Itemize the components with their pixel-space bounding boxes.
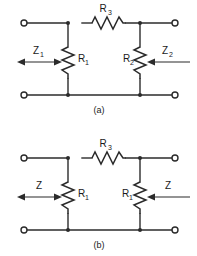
panel-a: R 3 R 1 R 2 Z 1 Z 2 (a) (17, 3, 190, 115)
panel-b-terminal-top-right (172, 155, 178, 161)
panel-a-resistor-r2-symbol (134, 47, 146, 79)
panel-b-node-top-right (138, 156, 142, 160)
panel-a-label-r1-subscript: 1 (85, 59, 89, 66)
panel-a-impedance-right-arrow (147, 59, 190, 66)
panel-a-resistor-r3-symbol (92, 17, 126, 29)
panel-b-node-bottom-right (138, 228, 142, 232)
panel-b: R 3 R 1 R 1 Z Z (b) (17, 138, 190, 250)
panel-a-caption: (a) (94, 105, 105, 115)
panel-a-resistor-r1-symbol (62, 47, 74, 79)
panel-a-label-r3: R (99, 3, 106, 14)
panel-b-impedance-right-arrow (147, 194, 190, 201)
panel-a-label-z2-subscript: 2 (169, 51, 173, 58)
panel-a-node-top-right (138, 21, 142, 25)
panel-b-impedance-left-arrow (17, 194, 62, 201)
circuit-diagram-canvas: R 3 R 1 R 2 Z 1 Z 2 (a) (0, 0, 197, 256)
panel-b-label-r1-left-subscript: 1 (85, 194, 89, 201)
panel-a-terminal-bottom-left (21, 92, 27, 98)
panel-b-label-r3: R (99, 138, 106, 149)
circuit-figure: R 3 R 1 R 2 Z 1 Z 2 (a) (0, 0, 197, 256)
panel-b-label-r3-subscript: 3 (108, 144, 112, 151)
panel-b-resistor-r1-right-symbol (134, 182, 146, 214)
panel-a-node-top-left (66, 21, 70, 25)
panel-b-node-bottom-left (66, 228, 70, 232)
panel-b-label-z-right: Z (165, 180, 171, 191)
panel-a-node-bottom-right (138, 93, 142, 97)
panel-b-resistor-r1-left-symbol (62, 182, 74, 214)
panel-a-node-bottom-left (66, 93, 70, 97)
panel-b-label-r1-right-subscript: 1 (129, 194, 133, 201)
panel-a-terminal-bottom-right (172, 92, 178, 98)
panel-a-terminal-top-right (172, 20, 178, 26)
panel-b-terminal-bottom-right (172, 227, 178, 233)
panel-a-impedance-left-arrow (17, 59, 62, 66)
panel-b-caption: (b) (94, 240, 105, 250)
panel-b-resistor-r3-symbol (92, 152, 126, 164)
panel-a-label-z1: Z (33, 45, 39, 56)
panel-a-terminal-top-left (21, 20, 27, 26)
panel-b-label-z-left: Z (36, 180, 42, 191)
panel-a-label-z2: Z (162, 45, 168, 56)
panel-b-node-top-left (66, 156, 70, 160)
panel-a-label-r2-subscript: 2 (130, 59, 134, 66)
panel-a-label-z1-subscript: 1 (40, 51, 44, 58)
panel-b-terminal-top-left (21, 155, 27, 161)
panel-a-label-r3-subscript: 3 (108, 9, 112, 16)
panel-b-terminal-bottom-left (21, 227, 27, 233)
